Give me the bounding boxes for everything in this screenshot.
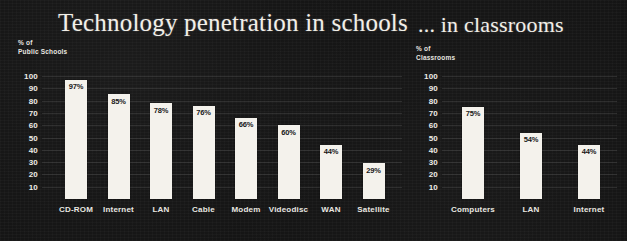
infographic-page: Technology penetration in schools % of P… — [0, 0, 627, 241]
bar-value-label: 29% — [363, 166, 385, 175]
bar-value-label: 66% — [235, 120, 257, 129]
chart-panel-public-schools: Technology penetration in schools % of P… — [0, 0, 408, 241]
y-axis-tick-20: 20 — [12, 170, 38, 179]
y-axis-tick-60: 60 — [412, 121, 438, 130]
gridline — [42, 174, 402, 175]
gridline — [42, 150, 402, 151]
bar-value-label: 97% — [65, 82, 87, 91]
gridline — [42, 138, 402, 139]
y-axis-tick-80: 80 — [412, 96, 438, 105]
bar-value-label: 60% — [278, 128, 300, 137]
gridline — [42, 113, 402, 114]
bar-lan — [150, 103, 172, 199]
gridline — [42, 101, 402, 102]
bar-modem — [235, 118, 257, 199]
x-axis-label-computers: Computers — [451, 205, 495, 214]
bar-cable — [193, 106, 215, 199]
x-axis-label-lan: LAN — [522, 205, 539, 214]
bar-internet — [108, 94, 130, 199]
y-axis-tick-90: 90 — [12, 84, 38, 93]
x-axis-label-cable: Cable — [192, 205, 215, 214]
x-axis-label-wan: WAN — [321, 205, 340, 214]
x-axis-label-internet: Internet — [574, 205, 605, 214]
gridline — [442, 88, 617, 89]
gridline — [42, 76, 402, 77]
gridline — [442, 76, 617, 77]
x-axis-label-internet: Internet — [103, 205, 134, 214]
y-axis-tick-80: 80 — [12, 96, 38, 105]
bar-computers — [462, 107, 484, 199]
x-axis-label-modem: Modem — [232, 205, 261, 214]
bar-value-label: 44% — [320, 147, 342, 156]
y-axis-tick-70: 70 — [12, 108, 38, 117]
y-axis-tick-40: 40 — [412, 145, 438, 154]
y-axis-tick-70: 70 — [412, 108, 438, 117]
y-axis-tick-50: 50 — [412, 133, 438, 142]
bar-value-label: 76% — [193, 108, 215, 117]
bar-value-label: 85% — [108, 97, 130, 106]
y-axis-tick-100: 100 — [412, 72, 438, 81]
bar-value-label: 44% — [578, 147, 600, 156]
chart-panel-classrooms: ... in classrooms % of Classrooms 100908… — [408, 0, 627, 241]
bar-value-label: 75% — [462, 109, 484, 118]
bar-value-label: 54% — [520, 135, 542, 144]
x-axis-label-lan: LAN — [152, 205, 169, 214]
gridline — [42, 125, 402, 126]
y-axis-tick-10: 10 — [412, 182, 438, 191]
y-axis-tick-60: 60 — [12, 121, 38, 130]
x-axis-label-satellite: Satellite — [357, 205, 389, 214]
y-axis-tick-30: 30 — [412, 158, 438, 167]
y-axis-tick-20: 20 — [412, 170, 438, 179]
gridline — [42, 88, 402, 89]
y-axis-tick-90: 90 — [412, 84, 438, 93]
bar-cd-rom — [65, 80, 87, 199]
y-axis-tick-100: 100 — [12, 72, 38, 81]
plot-area-left: 10090807060504030201097%CD-ROM85%Interne… — [0, 0, 408, 241]
x-axis-label-cd-rom: CD-ROM — [59, 205, 93, 214]
gridline — [442, 101, 617, 102]
y-axis-tick-10: 10 — [12, 182, 38, 191]
x-axis-label-videodisc: Videodisc — [269, 205, 308, 214]
gridline — [42, 162, 402, 163]
y-axis-tick-40: 40 — [12, 145, 38, 154]
plot-area-right: 10090807060504030201075%Computers54%LAN4… — [408, 0, 627, 241]
gridline — [42, 187, 402, 188]
y-axis-tick-50: 50 — [12, 133, 38, 142]
y-axis-tick-30: 30 — [12, 158, 38, 167]
bar-value-label: 78% — [150, 106, 172, 115]
